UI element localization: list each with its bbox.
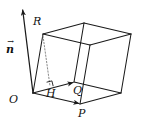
dotted-R-to-H [43,36,50,86]
label-point-O: O [9,94,18,105]
edge-Q-topQ [74,23,84,82]
label-point-H: H [46,88,56,99]
edge-R-topQ [43,23,84,34]
label-point-Q: Q [73,85,82,96]
edge-O-R [33,34,43,93]
perpendicular-dotted-group [43,36,50,86]
normal-vector-letter: n [6,44,14,55]
label-point-R: R [33,16,41,27]
geometry-canvas [0,0,151,126]
edge-topP-topfar [90,34,131,45]
label-point-P: P [78,108,85,119]
vector-normal-n [23,10,33,93]
edge-R-topP [43,34,90,45]
edge-basefar-topfar [121,34,131,93]
label-normal-vector: → n [6,40,14,55]
edge-topQ-topfar [84,23,131,34]
geometry-figure: → n O R Q P H [0,0,151,126]
edge-P-basefar [80,93,121,104]
